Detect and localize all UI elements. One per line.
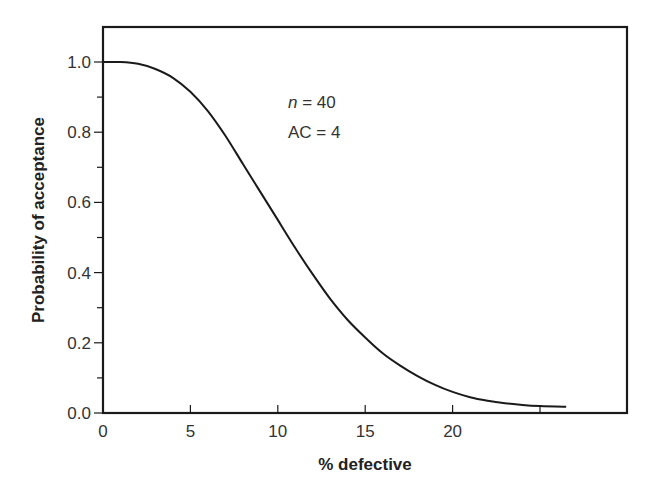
y-tick-label: 0.2: [67, 334, 91, 353]
y-tick-label: 1.0: [67, 53, 91, 72]
y-tick-label: 0.8: [67, 123, 91, 142]
x-tick-label: 5: [186, 422, 195, 441]
y-tick-label: 0.0: [67, 404, 91, 423]
x-tick-label: 0: [98, 422, 107, 441]
x-axis-ticks: 05101520: [98, 405, 540, 441]
y-axis-ticks: 0.00.20.40.60.81.0: [67, 53, 103, 423]
x-tick-label: 20: [443, 422, 462, 441]
y-axis-title: Probability of acceptance: [29, 117, 48, 323]
annotation-sample-size: n = 40: [288, 93, 336, 112]
oc-curve-line: [103, 62, 566, 407]
x-tick-label: 15: [356, 422, 375, 441]
x-axis-title: % defective: [318, 455, 412, 474]
annotation-acceptance-number: AC = 4: [288, 123, 340, 142]
y-tick-label: 0.6: [67, 193, 91, 212]
y-tick-label: 0.4: [67, 264, 91, 283]
oc-curve-chart: 0.00.20.40.60.81.0 05101520 n = 40 AC = …: [0, 0, 657, 498]
x-tick-label: 10: [268, 422, 287, 441]
